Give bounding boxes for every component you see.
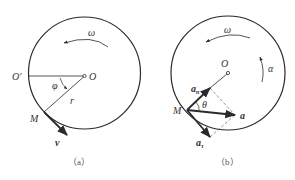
- tangential-acceleration-vector: [187, 110, 210, 137]
- radius-line-a: [44, 77, 84, 112]
- theta-arc: [196, 102, 199, 111]
- phi-arrow: [60, 78, 67, 89]
- omega-label-b: ω: [224, 24, 231, 35]
- v-label: v: [55, 137, 60, 148]
- omega-arrow-b: [206, 35, 250, 42]
- dashed-line-an-a: [210, 88, 235, 115]
- m-label-b: M: [172, 105, 182, 116]
- phi-label: φ: [52, 80, 58, 91]
- dashed-line-at-a: [210, 115, 235, 137]
- a-label: a: [240, 110, 245, 121]
- r-label: r: [70, 95, 74, 106]
- a-n-label: an: [191, 83, 200, 95]
- caption-a: （a）: [68, 157, 90, 167]
- o-label-b: O: [221, 58, 228, 69]
- o-label-a: O: [89, 71, 96, 82]
- o-prime-label: O′: [12, 71, 22, 82]
- omega-label-a: ω: [88, 27, 95, 38]
- theta-label: θ: [202, 99, 207, 110]
- radius-line-b: [210, 74, 227, 88]
- caption-b: （b）: [216, 157, 239, 167]
- diagram-canvas: ω O′ O φ r M v （a） ω α O: [0, 0, 295, 180]
- total-acceleration-vector: [187, 110, 235, 115]
- a-tau-label: aτ: [196, 137, 204, 149]
- omega-arrow-a: [64, 39, 108, 47]
- figure-a: ω O′ O φ r M v （a）: [12, 17, 141, 167]
- alpha-label: α: [268, 63, 274, 74]
- m-label-a: M: [29, 113, 39, 124]
- alpha-arrow: [260, 57, 263, 82]
- velocity-vector: [44, 112, 67, 135]
- figure-b: ω α O θ an M a aτ （b）: [171, 16, 285, 167]
